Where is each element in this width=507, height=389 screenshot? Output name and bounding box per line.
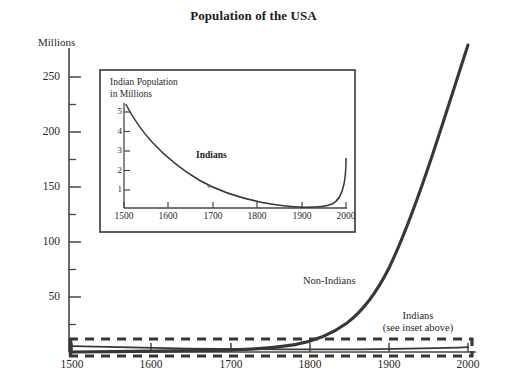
inset-y-tick-1: 1 [106,184,122,194]
inset-y-tick-2: 2 [106,165,122,175]
y-axis-minor-ticks [69,105,76,325]
inset-y-tick-3: 3 [106,145,122,155]
population-chart-figure: Population of the USA [0,0,507,389]
y-axis-major-ticks [69,77,81,297]
inset-curve-marker [207,184,210,187]
non-indians-series-label: Non-Indians [303,275,356,287]
inset-x-tick-1900: 1900 [282,211,322,221]
inset-x-tick-1600: 1600 [148,211,188,221]
inset-x-tick-1700: 1700 [193,211,233,221]
x-tick-label-1600: 1600 [126,358,176,370]
inset-y-tick-4: 4 [106,126,122,136]
y-tick-label-150: 150 [26,180,60,192]
y-tick-label-100: 100 [26,235,60,247]
x-tick-label-1700: 1700 [206,358,256,370]
y-axis-unit-label: Millions [38,36,75,48]
inset-y-tick-5: 5 [106,106,122,116]
inset-caption: Indian Population in Millions [110,77,178,101]
inset-indians-series-label: Indians [196,150,227,160]
y-tick-label-200: 200 [26,125,60,137]
x-tick-label-2000: 2000 [443,358,493,370]
inset-x-tick-1800: 1800 [237,211,277,221]
x-tick-label-1500: 1500 [47,358,97,370]
indians-series-label: Indians (see inset above) [370,310,466,334]
x-tick-label-1900: 1900 [364,358,414,370]
y-tick-label-250: 250 [26,70,60,82]
y-tick-label-50: 50 [26,290,60,302]
inset-x-tick-2000: 2000 [326,211,366,221]
indians-series-label-line1: Indians [403,310,434,321]
x-tick-label-1800: 1800 [285,358,335,370]
inset-x-tick-1500: 1500 [104,211,144,221]
indians-series-label-line2: (see inset above) [383,322,454,333]
